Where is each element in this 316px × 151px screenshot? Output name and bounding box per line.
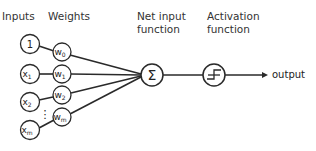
weight-node-w0: w0: [53, 43, 71, 61]
perceptron-diagram: 1 x1 x2 xm ⋮ w0 w1 w2 wm Σ: [0, 0, 316, 151]
connection-lines: [39, 46, 263, 128]
weight-node-w1: w1: [53, 65, 71, 83]
weight-node-wm: wm: [53, 108, 71, 126]
input-node-bias: 1: [21, 35, 40, 54]
weight-node-w2: w2: [53, 86, 71, 104]
output-label: output: [272, 69, 305, 80]
sigma-icon: Σ: [148, 67, 157, 83]
output-arrowhead-icon: [262, 72, 268, 78]
input-node-x1: x1: [21, 65, 40, 84]
input-node-label: 1: [27, 39, 33, 50]
net-input-node: Σ: [141, 64, 163, 86]
activation-node: [203, 64, 225, 86]
input-node-xm: xm: [21, 121, 40, 140]
ellipsis-icon: ⋮: [40, 108, 51, 121]
input-node-x2: x2: [21, 93, 40, 112]
